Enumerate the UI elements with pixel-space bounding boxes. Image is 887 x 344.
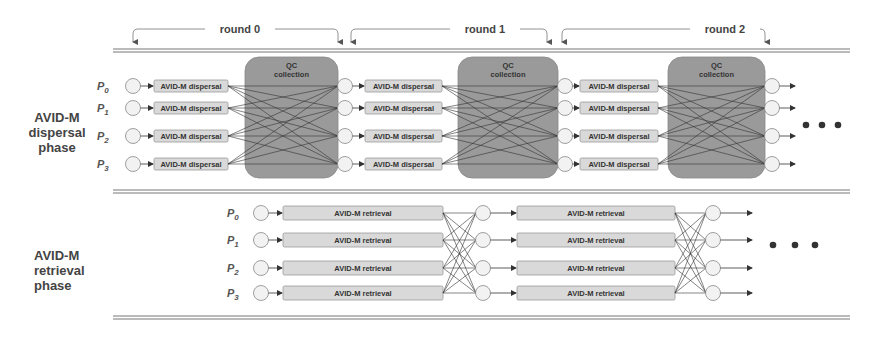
retrieval-continuation-dot-0 <box>770 242 777 249</box>
round-1-label: round 1 <box>465 23 505 35</box>
retrieval-output-circle-s1-p2 <box>706 261 721 276</box>
process-subscript: 1 <box>104 108 109 117</box>
round-2-label: round 2 <box>705 23 745 35</box>
round-1-left-bracket <box>351 29 450 42</box>
qc-output-circle-r0-p3 <box>338 157 353 172</box>
process-subscript: 3 <box>234 293 239 302</box>
dispersal-box-r1-p0-label: AVID-M dispersal <box>373 82 434 91</box>
round-2-left-bracket <box>562 29 690 42</box>
qc-output-circle-r1-p1 <box>558 101 573 116</box>
retrieval-box-s1-p0-label: AVID-M retrieval <box>567 209 624 218</box>
round-0-label: round 0 <box>220 23 260 35</box>
process-subscript: 2 <box>103 136 109 145</box>
dispersal-box-r2-p1-label: AVID-M dispersal <box>588 104 649 113</box>
retrieval-output-circle-s0-p1 <box>476 233 491 248</box>
qc-label-line1: QC <box>502 61 514 70</box>
round-0-left-bracket <box>133 29 205 42</box>
dispersal_phase-process-label-p1: P1 <box>97 102 109 117</box>
qc-label-line1: QC <box>711 61 723 70</box>
qc-label-line2: collection <box>490 70 525 79</box>
dispersal_phase-process-label-p3: P3 <box>97 158 109 173</box>
retrieval-output-circle-s0-p3 <box>476 286 491 301</box>
process-subscript: 0 <box>104 86 109 95</box>
retrieval-input-circle-p1 <box>254 233 269 248</box>
retrieval-box-s1-p1-label: AVID-M retrieval <box>567 236 624 245</box>
qc-output-circle-r1-p3 <box>558 157 573 172</box>
retrieval-output-circle-s1-p3 <box>706 286 721 301</box>
retrieval-continuation-dot-2 <box>812 242 819 249</box>
qc-output-circle-r2-p3 <box>765 157 780 172</box>
dispersal-input-circle-p1 <box>126 101 141 116</box>
round-0-right-bracket <box>275 29 338 42</box>
retrieval_phase-process-label-p2: P2 <box>227 262 239 277</box>
retrieval-input-circle-p0 <box>254 206 269 221</box>
dispersal-box-r1-p2-label: AVID-M dispersal <box>373 132 434 141</box>
retrieval-box-s0-p3-label: AVID-M retrieval <box>334 289 391 298</box>
dispersal-box-r0-p2-label: AVID-M dispersal <box>160 132 221 141</box>
dispersal-box-r2-p2-label: AVID-M dispersal <box>588 132 649 141</box>
qc-output-circle-r2-p1 <box>765 101 780 116</box>
dispersal-input-circle-p3 <box>126 157 141 172</box>
retrieval_phase-process-label-p3: P3 <box>227 287 239 302</box>
qc-output-circle-r1-p2 <box>558 129 573 144</box>
dispersal-input-circle-p0 <box>126 79 141 94</box>
qc-output-circle-r1-p0 <box>558 79 573 94</box>
dispersal-box-r1-p1-label: AVID-M dispersal <box>373 104 434 113</box>
dispersal-box-r0-p1-label: AVID-M dispersal <box>160 104 221 113</box>
qc-output-circle-r0-p1 <box>338 101 353 116</box>
dispersal_phase-process-label-p0: P0 <box>97 80 109 95</box>
continuation-dot-0 <box>803 122 810 129</box>
retrieval-output-circle-s1-p1 <box>706 233 721 248</box>
retrieval-box-s0-p1-label: AVID-M retrieval <box>334 236 391 245</box>
continuation-dot-2 <box>835 122 842 129</box>
round-2-right-bracket <box>760 29 765 42</box>
qc-label-line2: collection <box>699 70 734 79</box>
retrieval-output-circle-s0-p2 <box>476 261 491 276</box>
process-subscript: 3 <box>104 164 109 173</box>
qc-output-circle-r2-p2 <box>765 129 780 144</box>
retrieval-input-circle-p3 <box>254 286 269 301</box>
retrieval-box-s1-p3-label: AVID-M retrieval <box>567 289 624 298</box>
qc-output-circle-r0-p2 <box>338 129 353 144</box>
retrieval_phase-process-label-p1: P1 <box>227 234 239 249</box>
dispersal-box-r2-p3-label: AVID-M dispersal <box>588 160 649 169</box>
round-1-right-bracket <box>520 29 547 42</box>
retrieval-output-circle-s0-p0 <box>476 206 491 221</box>
retrieval-continuation-dot-1 <box>792 242 799 249</box>
retrieval-input-circle-p2 <box>254 261 269 276</box>
dispersal-box-r0-p0-label: AVID-M dispersal <box>160 82 221 91</box>
retrieval_phase-process-label-p0: P0 <box>227 207 239 222</box>
process-subscript: 1 <box>234 240 239 249</box>
retrieval-output-circle-s1-p0 <box>706 206 721 221</box>
dispersal-box-r2-p0-label: AVID-M dispersal <box>588 82 649 91</box>
avid-m-protocol-diagram: round 0round 1round 2P0P1P2P3QCcollectio… <box>0 0 887 344</box>
retrieval-box-s0-p2-label: AVID-M retrieval <box>334 264 391 273</box>
qc-label-line1: QC <box>286 61 298 70</box>
retrieval-box-s0-p0-label: AVID-M retrieval <box>334 209 391 218</box>
dispersal-box-r0-p3-label: AVID-M dispersal <box>160 160 221 169</box>
process-subscript: 2 <box>233 268 239 277</box>
dispersal-box-r1-p3-label: AVID-M dispersal <box>373 160 434 169</box>
continuation-dot-1 <box>819 122 826 129</box>
qc-output-circle-r2-p0 <box>765 79 780 94</box>
qc-output-circle-r0-p0 <box>338 79 353 94</box>
dispersal_phase-process-label-p2: P2 <box>97 130 109 145</box>
retrieval-box-s1-p2-label: AVID-M retrieval <box>567 264 624 273</box>
dispersal-input-circle-p2 <box>126 129 141 144</box>
process-subscript: 0 <box>234 213 239 222</box>
qc-label-line2: collection <box>274 70 309 79</box>
